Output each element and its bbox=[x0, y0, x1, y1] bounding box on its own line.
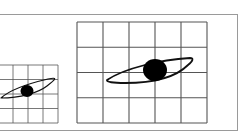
grid-enlargement-diagram bbox=[0, 0, 243, 134]
pupil bbox=[143, 59, 167, 81]
large-grid bbox=[77, 22, 207, 123]
pupil bbox=[21, 85, 34, 97]
small-grid bbox=[0, 65, 58, 123]
